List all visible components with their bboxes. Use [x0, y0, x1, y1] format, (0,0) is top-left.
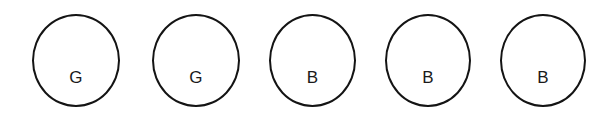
- ball-4-label: B: [387, 69, 469, 86]
- ball-1: G: [32, 14, 120, 107]
- ball-4: B: [385, 14, 471, 107]
- ball-3-label: B: [271, 69, 354, 86]
- ball-sequence-diagram: GGBBB: [0, 0, 615, 115]
- ball-2: G: [152, 14, 240, 107]
- ball-5-label: B: [502, 69, 584, 86]
- ball-2-label: G: [154, 69, 238, 86]
- ball-3: B: [269, 14, 356, 107]
- ball-5: B: [500, 14, 586, 107]
- ball-1-label: G: [34, 69, 118, 86]
